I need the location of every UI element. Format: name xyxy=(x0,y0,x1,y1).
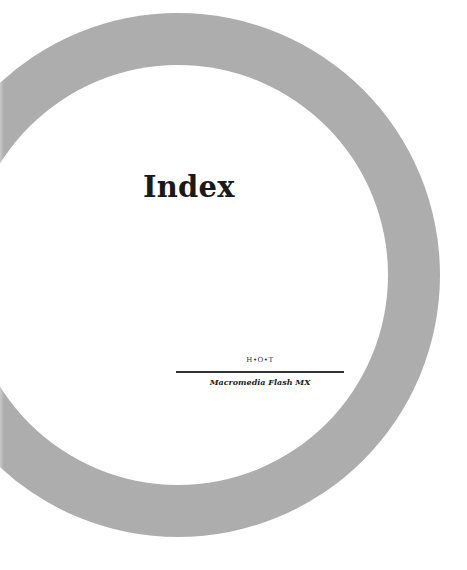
book-title: Macromedia Flash MX xyxy=(176,377,344,387)
page-title: Index xyxy=(143,170,235,204)
divider-rule xyxy=(176,371,344,373)
page-gutter xyxy=(0,0,4,570)
series-mark: H•O•T xyxy=(176,356,344,364)
